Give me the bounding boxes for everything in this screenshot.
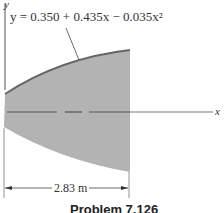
y-axis-label: y [4, 0, 9, 10]
diagram-canvas [0, 0, 224, 213]
caption: Problem 7.126 [70, 202, 158, 213]
arrow-right-icon [121, 186, 128, 190]
equation-label: y = 0.350 + 0.435x − 0.035x² [10, 9, 163, 25]
x-axis-label: x [215, 105, 220, 117]
dimension-label: 2.83 m [52, 181, 89, 196]
shaded-region [4, 50, 130, 172]
leader-line [66, 28, 79, 60]
arrow-left-icon [5, 186, 12, 190]
